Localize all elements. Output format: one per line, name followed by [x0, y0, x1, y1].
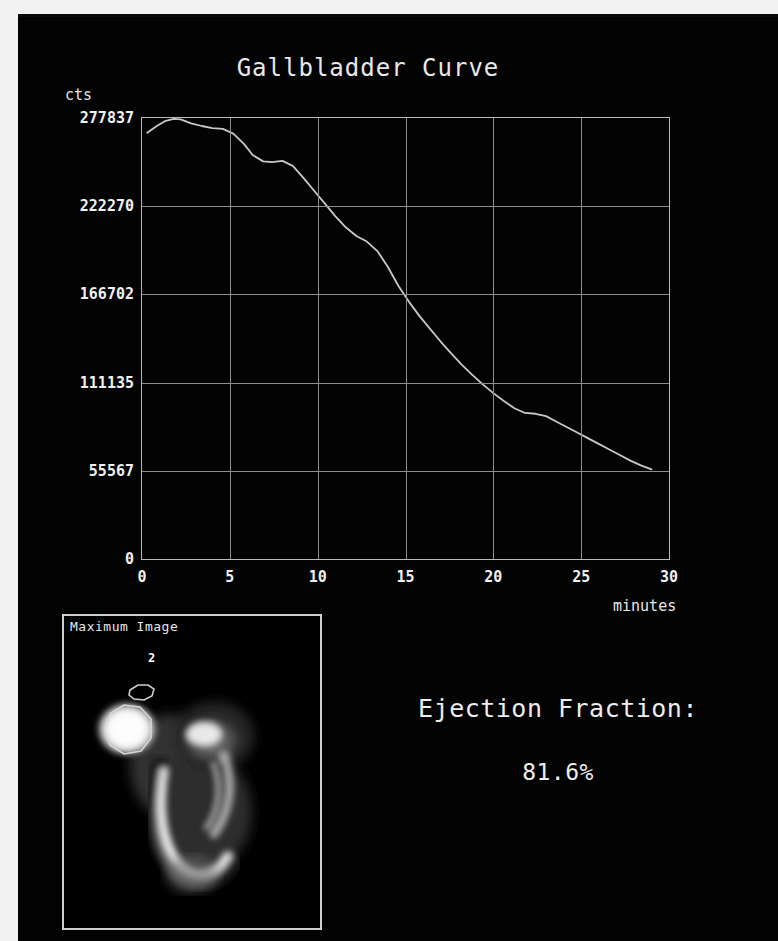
maximum-image-label: Maximum Image — [70, 619, 178, 634]
x-axis-tick-label: 30 — [660, 568, 678, 586]
grid-line-vertical — [318, 118, 319, 559]
x-axis-tick-label: 0 — [137, 568, 146, 586]
roi-number-label: 2 — [148, 651, 155, 665]
x-axis-tick-label: 5 — [225, 568, 234, 586]
x-axis-unit-label: minutes — [613, 597, 676, 615]
grid-line-vertical — [581, 118, 582, 559]
grid-line-horizontal — [142, 294, 669, 295]
plot-area: 0510152025300555671111351667022222702778… — [141, 117, 670, 560]
grid-line-vertical — [406, 118, 407, 559]
x-axis-tick-label: 10 — [309, 568, 327, 586]
grid-line-horizontal — [142, 471, 669, 472]
grid-line-vertical — [493, 118, 494, 559]
y-axis-tick-label: 166702 — [80, 285, 134, 303]
y-axis-tick-label: 222270 — [80, 197, 134, 215]
grid-line-vertical — [230, 118, 231, 559]
y-axis-tick-label: 111135 — [80, 374, 134, 392]
console-area: Gallbladder Curve cts 051015202530055567… — [18, 14, 778, 941]
ejection-fraction-value: 81.6% — [348, 759, 768, 785]
report-screen: Gallbladder Curve cts 051015202530055567… — [0, 0, 778, 941]
x-axis-tick-label: 25 — [572, 568, 590, 586]
x-axis-tick-label: 20 — [484, 568, 502, 586]
y-axis-tick-label: 277837 — [80, 109, 134, 127]
y-axis-tick-label: 0 — [125, 550, 134, 568]
x-axis-tick-label: 15 — [396, 568, 414, 586]
ejection-fraction-block: Ejection Fraction: 81.6% — [348, 694, 768, 785]
grid-line-horizontal — [142, 383, 669, 384]
ejection-fraction-label: Ejection Fraction: — [348, 694, 768, 723]
maximum-image-panel[interactable]: Maximum Image 2 — [62, 614, 322, 930]
chart-panel: cts 051015202530055567111135166702222270… — [18, 14, 778, 634]
scintigraphy-image — [64, 616, 320, 928]
y-axis-tick-label: 55567 — [89, 462, 134, 480]
grid-line-horizontal — [142, 206, 669, 207]
y-axis-unit-label: cts — [65, 86, 92, 104]
